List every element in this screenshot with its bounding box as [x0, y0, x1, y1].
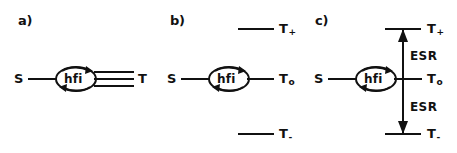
panel-b: b) T+ S hfi To T- [160, 0, 307, 153]
panel-b-level-line-tzero [247, 78, 274, 80]
panel-c: c) T+ S hfi To T- ESR ESR [307, 0, 457, 153]
panel-c-esr-label-upper: ESR [410, 50, 437, 62]
panel-c-esr-arrowhead-up [398, 29, 408, 42]
panel-b-level-label-tzero: To [279, 72, 294, 85]
panel-c-esr-arrow-group [307, 0, 457, 153]
panel-a-triplet-label: T [138, 72, 147, 85]
panel-b-tzero-sub: o [288, 77, 294, 87]
panel-c-esr-arrowhead-down [398, 121, 408, 134]
panel-b-hfi-label: hfi [217, 73, 236, 85]
panel-a-hfi-label: hfi [64, 73, 83, 85]
panel-a: a) S hfi T [0, 0, 160, 153]
panel-a-triplet-line-2 [94, 78, 134, 80]
panel-c-esr-label-lower: ESR [410, 101, 437, 113]
panel-b-tminus-sub: - [288, 132, 292, 142]
panel-b-level-line-tminus [238, 133, 274, 135]
panel-a-triplet-line-3 [94, 85, 134, 87]
figure-root: a) S hfi T b) T+ S [0, 0, 457, 153]
panel-b-level-label-tminus: T- [279, 127, 292, 140]
panel-a-triplet-line-1 [94, 71, 134, 73]
panel-b-tminus-base: T [279, 126, 288, 141]
panel-b-tzero-base: T [279, 71, 288, 86]
